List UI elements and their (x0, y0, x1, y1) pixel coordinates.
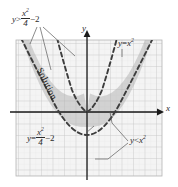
frac-wide-exponent: 2 (41, 126, 44, 132)
label-inequality-bottom: y<x2 (130, 136, 146, 145)
fraction-wide: x2 4 (36, 128, 45, 148)
frac-top-exponent: 2 (26, 7, 29, 13)
label-equation-wide-parabola: y= x2 4 −2 (27, 128, 54, 148)
frac-wide-denominator: 4 (36, 138, 45, 147)
label-equation-narrow-parabola: y=x2 (118, 39, 134, 48)
label-eq-wide-constant: 2 (50, 133, 55, 143)
frac-top-denominator: 4 (21, 19, 30, 28)
label-ineq-top-constant: 2 (35, 14, 40, 24)
label-eq-narrow-exponent: 2 (131, 37, 134, 43)
figure-container: y> x2 4 −2 y= x2 4 −2 y=x2 y<x2 y x Solu… (0, 0, 178, 187)
axis-label-y: y (82, 24, 86, 33)
axis-label-x: x (166, 104, 170, 113)
label-ineq-bottom-exponent: 2 (143, 134, 146, 140)
label-inequality-top: y> x2 4 −2 (12, 9, 39, 29)
fraction-top: x2 4 (21, 9, 30, 29)
